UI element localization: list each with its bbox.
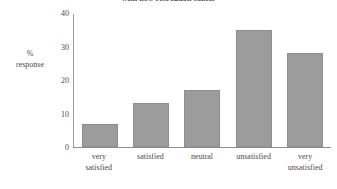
bar-satisfied bbox=[133, 103, 169, 147]
bar-very-satisfied bbox=[82, 124, 118, 147]
x-tick-line-1: very bbox=[279, 151, 331, 162]
x-tick-line-1: very bbox=[73, 151, 125, 162]
y-tick-label-20: 20 bbox=[61, 77, 69, 85]
y-tick-label-0: 0 bbox=[65, 144, 69, 152]
bar-slot bbox=[125, 14, 176, 147]
bar-slot bbox=[74, 14, 125, 147]
x-axis-tick-labels: very satisfied satisfied neutral unsatis… bbox=[73, 151, 331, 173]
plot-area: 0 10 20 30 40 bbox=[73, 14, 331, 148]
x-tick-line-2: satisfied bbox=[73, 162, 125, 173]
y-tick-label-30: 30 bbox=[61, 44, 69, 52]
y-axis-label-line-1: % bbox=[2, 48, 58, 59]
bar-very-unsatisfied bbox=[287, 53, 323, 147]
x-tick-line-1: neutral bbox=[176, 151, 228, 162]
x-tick-line-2: unsatisfied bbox=[279, 162, 331, 173]
y-axis-label-line-2: response bbox=[2, 59, 58, 70]
bar-chart-figure: with new recreation center % response 0 … bbox=[0, 0, 337, 189]
bar-slot bbox=[177, 14, 228, 147]
y-axis-label: % response bbox=[2, 48, 58, 70]
x-tick-line-1: satisfied bbox=[125, 151, 177, 162]
x-tick-label-unsatisfied: unsatisfied bbox=[228, 151, 280, 173]
bar-slot bbox=[228, 14, 279, 147]
x-tick-line-1: unsatisfied bbox=[228, 151, 280, 162]
bar-slot bbox=[280, 14, 331, 147]
chart-title: with new recreation center bbox=[0, 0, 337, 3]
x-tick-label-neutral: neutral bbox=[176, 151, 228, 173]
bar-series bbox=[74, 14, 331, 147]
x-tick-label-satisfied: satisfied bbox=[125, 151, 177, 173]
y-tick-label-10: 10 bbox=[61, 111, 69, 119]
x-axis-line bbox=[73, 147, 331, 148]
x-tick-label-very-unsatisfied: very unsatisfied bbox=[279, 151, 331, 173]
y-tick-label-40: 40 bbox=[61, 10, 69, 18]
bar-unsatisfied bbox=[236, 30, 272, 147]
bar-neutral bbox=[184, 90, 220, 147]
x-tick-label-very-satisfied: very satisfied bbox=[73, 151, 125, 173]
